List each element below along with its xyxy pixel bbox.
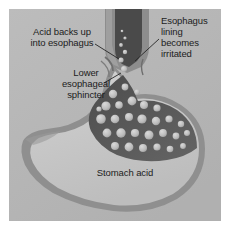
acid-bubble xyxy=(125,143,134,152)
acid-bubble xyxy=(125,113,133,121)
acid-bubble xyxy=(178,121,184,127)
label-stomach-acid: Stomach acid xyxy=(85,167,165,178)
acid-bubble xyxy=(121,30,124,33)
acid-bubble xyxy=(111,142,119,150)
acid-bubble xyxy=(153,104,160,111)
label-lower-esophageal-sphincter: Lower esophageal sphincter xyxy=(46,67,126,100)
figure-root: Acid backs up into esophagus Esophagus l… xyxy=(0,0,229,233)
acid-bubble xyxy=(184,130,190,136)
acid-bubble xyxy=(134,89,139,94)
acid-bubble xyxy=(131,129,139,137)
acid-bubble xyxy=(180,143,186,149)
acid-bubble xyxy=(96,114,106,124)
acid-bubble xyxy=(111,115,120,124)
acid-bubble xyxy=(140,101,148,109)
acid-bubble xyxy=(145,131,154,140)
acid-bubble xyxy=(103,129,112,138)
acid-bubble xyxy=(173,133,180,140)
acid-bubble xyxy=(165,115,172,122)
anatomy-illustration: Acid backs up into esophagus Esophagus l… xyxy=(9,9,221,221)
label-esophagus-lining: Esophagus lining becomes irritated xyxy=(161,15,221,59)
acid-bubble xyxy=(153,143,160,150)
acid-bubble xyxy=(139,144,147,152)
acid-bubble xyxy=(123,50,127,54)
acid-bubble xyxy=(152,117,160,125)
acid-bubble xyxy=(96,106,101,111)
acid-bubble xyxy=(123,36,126,39)
acid-bubble xyxy=(167,146,174,153)
acid-bubble xyxy=(101,101,110,110)
acid-bubble xyxy=(128,97,137,106)
acid-bubble xyxy=(137,114,146,123)
acid-bubble xyxy=(159,129,167,137)
acid-bubble xyxy=(115,101,123,109)
label-acid-backs-up: Acid backs up into esophagus xyxy=(14,26,110,48)
acid-bubble xyxy=(119,43,123,47)
acid-bubble xyxy=(116,128,125,137)
acid-bubble xyxy=(118,57,123,62)
